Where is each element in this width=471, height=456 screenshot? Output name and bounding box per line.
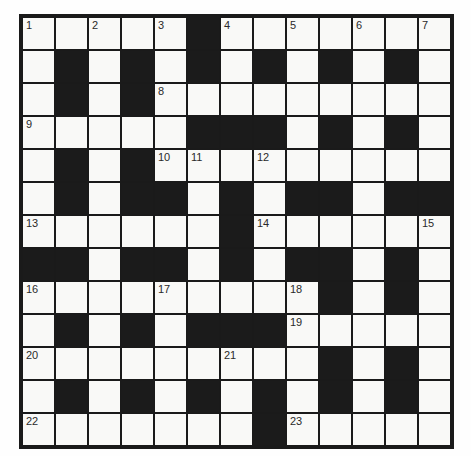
letter-cell[interactable]	[418, 347, 451, 380]
letter-cell[interactable]	[88, 281, 121, 314]
letter-cell[interactable]	[88, 413, 121, 446]
letter-cell[interactable]	[22, 380, 55, 413]
letter-cell[interactable]	[319, 149, 352, 182]
letter-cell[interactable]	[253, 83, 286, 116]
letter-cell[interactable]	[154, 347, 187, 380]
letter-cell[interactable]	[253, 281, 286, 314]
letter-cell[interactable]	[286, 116, 319, 149]
letter-cell[interactable]: 10	[154, 149, 187, 182]
letter-cell[interactable]: 20	[22, 347, 55, 380]
letter-cell[interactable]	[187, 83, 220, 116]
letter-cell[interactable]	[286, 215, 319, 248]
letter-cell[interactable]	[385, 314, 418, 347]
letter-cell[interactable]	[55, 215, 88, 248]
letter-cell[interactable]	[154, 413, 187, 446]
letter-cell[interactable]	[385, 413, 418, 446]
letter-cell[interactable]	[352, 50, 385, 83]
letter-cell[interactable]	[88, 347, 121, 380]
letter-cell[interactable]	[385, 17, 418, 50]
letter-cell[interactable]	[352, 347, 385, 380]
letter-cell[interactable]	[22, 314, 55, 347]
letter-cell[interactable]	[55, 413, 88, 446]
letter-cell[interactable]	[154, 314, 187, 347]
letter-cell[interactable]	[418, 380, 451, 413]
letter-cell[interactable]	[22, 149, 55, 182]
letter-cell[interactable]	[418, 413, 451, 446]
letter-cell[interactable]	[154, 50, 187, 83]
letter-cell[interactable]	[286, 347, 319, 380]
letter-cell[interactable]	[220, 83, 253, 116]
letter-cell[interactable]	[319, 17, 352, 50]
letter-cell[interactable]: 13	[22, 215, 55, 248]
letter-cell[interactable]	[352, 182, 385, 215]
letter-cell[interactable]	[187, 347, 220, 380]
letter-cell[interactable]	[55, 281, 88, 314]
letter-cell[interactable]	[418, 248, 451, 281]
letter-cell[interactable]: 2	[88, 17, 121, 50]
letter-cell[interactable]: 17	[154, 281, 187, 314]
letter-cell[interactable]	[22, 182, 55, 215]
letter-cell[interactable]	[22, 83, 55, 116]
letter-cell[interactable]	[187, 248, 220, 281]
letter-cell[interactable]: 6	[352, 17, 385, 50]
letter-cell[interactable]	[253, 248, 286, 281]
letter-cell[interactable]	[253, 347, 286, 380]
letter-cell[interactable]	[352, 380, 385, 413]
letter-cell[interactable]	[319, 413, 352, 446]
letter-cell[interactable]	[88, 215, 121, 248]
letter-cell[interactable]	[22, 50, 55, 83]
letter-cell[interactable]	[352, 248, 385, 281]
letter-cell[interactable]	[352, 116, 385, 149]
letter-cell[interactable]	[121, 215, 154, 248]
letter-cell[interactable]	[88, 314, 121, 347]
letter-cell[interactable]: 15	[418, 215, 451, 248]
letter-cell[interactable]	[88, 182, 121, 215]
letter-cell[interactable]	[88, 149, 121, 182]
letter-cell[interactable]	[187, 182, 220, 215]
letter-cell[interactable]	[385, 83, 418, 116]
letter-cell[interactable]	[55, 116, 88, 149]
letter-cell[interactable]: 16	[22, 281, 55, 314]
letter-cell[interactable]: 14	[253, 215, 286, 248]
letter-cell[interactable]: 22	[22, 413, 55, 446]
letter-cell[interactable]	[418, 116, 451, 149]
letter-cell[interactable]	[319, 314, 352, 347]
letter-cell[interactable]: 9	[22, 116, 55, 149]
letter-cell[interactable]	[220, 50, 253, 83]
letter-cell[interactable]	[352, 413, 385, 446]
letter-cell[interactable]	[187, 413, 220, 446]
letter-cell[interactable]	[121, 347, 154, 380]
letter-cell[interactable]	[121, 17, 154, 50]
letter-cell[interactable]	[418, 314, 451, 347]
letter-cell[interactable]	[352, 314, 385, 347]
letter-cell[interactable]	[220, 380, 253, 413]
letter-cell[interactable]: 3	[154, 17, 187, 50]
letter-cell[interactable]	[319, 83, 352, 116]
letter-cell[interactable]	[286, 149, 319, 182]
letter-cell[interactable]	[385, 215, 418, 248]
letter-cell[interactable]: 8	[154, 83, 187, 116]
letter-cell[interactable]	[385, 149, 418, 182]
letter-cell[interactable]: 5	[286, 17, 319, 50]
letter-cell[interactable]	[352, 215, 385, 248]
letter-cell[interactable]	[253, 182, 286, 215]
letter-cell[interactable]: 7	[418, 17, 451, 50]
letter-cell[interactable]	[418, 149, 451, 182]
letter-cell[interactable]	[55, 347, 88, 380]
letter-cell[interactable]: 1	[22, 17, 55, 50]
letter-cell[interactable]: 11	[187, 149, 220, 182]
letter-cell[interactable]	[88, 83, 121, 116]
letter-cell[interactable]: 18	[286, 281, 319, 314]
letter-cell[interactable]	[154, 215, 187, 248]
letter-cell[interactable]	[55, 17, 88, 50]
letter-cell[interactable]	[319, 215, 352, 248]
letter-cell[interactable]: 19	[286, 314, 319, 347]
letter-cell[interactable]	[220, 149, 253, 182]
letter-cell[interactable]	[418, 281, 451, 314]
letter-cell[interactable]	[88, 50, 121, 83]
letter-cell[interactable]	[121, 116, 154, 149]
letter-cell[interactable]: 4	[220, 17, 253, 50]
letter-cell[interactable]	[88, 116, 121, 149]
letter-cell[interactable]	[121, 413, 154, 446]
letter-cell[interactable]	[121, 281, 154, 314]
